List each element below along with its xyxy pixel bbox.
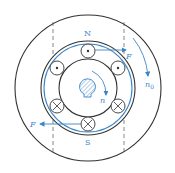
slot-upper-left xyxy=(50,61,64,75)
slot-lower-left xyxy=(50,99,64,113)
motor-diagram: N S F F n0 n xyxy=(0,0,175,173)
force-top-label: F xyxy=(125,52,132,61)
field-speed-label: n0 xyxy=(145,80,154,90)
force-bottom-label: F xyxy=(29,120,36,129)
north-pole-label: N xyxy=(84,29,91,38)
current-out-dot-icon xyxy=(87,50,89,52)
south-pole-label: S xyxy=(85,138,90,147)
current-out-dot-icon xyxy=(56,67,58,69)
current-out-dot-icon xyxy=(117,67,119,69)
slot-bottom xyxy=(81,117,95,131)
slot-upper-right xyxy=(111,61,125,75)
slot-top xyxy=(81,44,95,58)
rotor-speed-label: n xyxy=(100,96,105,105)
slot-lower-right xyxy=(111,99,125,113)
field-speed-subscript: 0 xyxy=(150,83,154,90)
